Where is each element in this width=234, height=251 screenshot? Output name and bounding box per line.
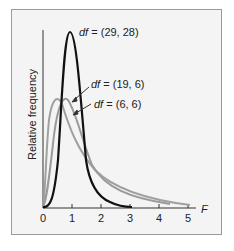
label-df-6-6: df = (6, 6) xyxy=(94,98,141,110)
tick-label-0: 0 xyxy=(40,212,46,224)
tick-label-1: 1 xyxy=(69,212,75,224)
label-df-29-28: df = (29, 28) xyxy=(79,26,139,38)
tick-label-4: 4 xyxy=(156,212,162,224)
tick-label-3: 3 xyxy=(127,212,133,224)
label-df-19-6: df = (19, 6) xyxy=(91,78,145,90)
curve-df-6-6 xyxy=(43,99,190,207)
x-axis-label: F xyxy=(201,203,209,215)
curve-df-19-6 xyxy=(43,99,170,207)
tick-label-5: 5 xyxy=(185,212,191,224)
tick-label-2: 2 xyxy=(98,212,104,224)
y-axis-label: Relative frequency xyxy=(26,68,38,160)
f-distribution-chart: df = (29, 28) df = (19, 6) df = (6, 6) 0… xyxy=(0,0,234,251)
